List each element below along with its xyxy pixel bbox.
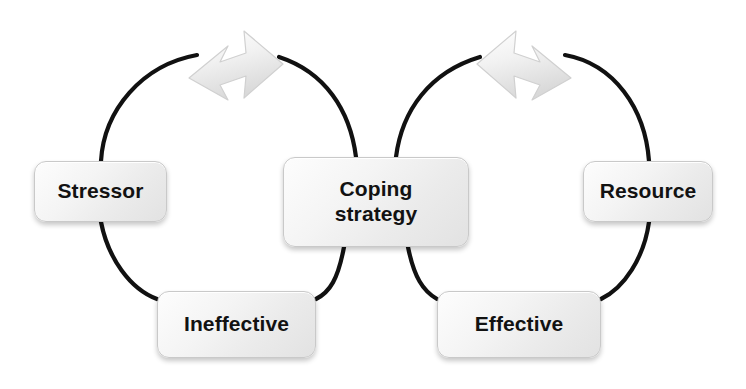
arrow-right-icon <box>186 26 286 104</box>
node-ineffective-label: Ineffective <box>184 312 289 337</box>
arc-effective-to-coping <box>408 247 437 299</box>
arrow-left-icon <box>474 26 574 104</box>
diagram-canvas: Stressor Coping strategy Resource Ineffe… <box>0 0 746 389</box>
node-effective-label: Effective <box>475 312 563 337</box>
node-resource-label: Resource <box>600 179 697 204</box>
node-stressor-label: Stressor <box>57 179 143 204</box>
arc-coping-to-arrow <box>396 57 480 157</box>
node-coping-strategy-label: Coping strategy <box>335 177 418 227</box>
node-ineffective[interactable]: Ineffective <box>157 291 316 358</box>
arc-stressor-to-arrow <box>101 55 197 161</box>
arc-resource-to-effective <box>601 222 649 299</box>
arc-ineffective-to-stressor <box>101 222 157 299</box>
arc-arrow-to-coping <box>279 57 356 157</box>
node-resource[interactable]: Resource <box>583 161 713 222</box>
node-coping-strategy[interactable]: Coping strategy <box>283 157 469 247</box>
arc-arrow-to-resource <box>565 55 649 161</box>
node-stressor[interactable]: Stressor <box>34 161 167 222</box>
arc-coping-to-ineffective <box>316 247 344 299</box>
node-effective[interactable]: Effective <box>437 291 601 358</box>
